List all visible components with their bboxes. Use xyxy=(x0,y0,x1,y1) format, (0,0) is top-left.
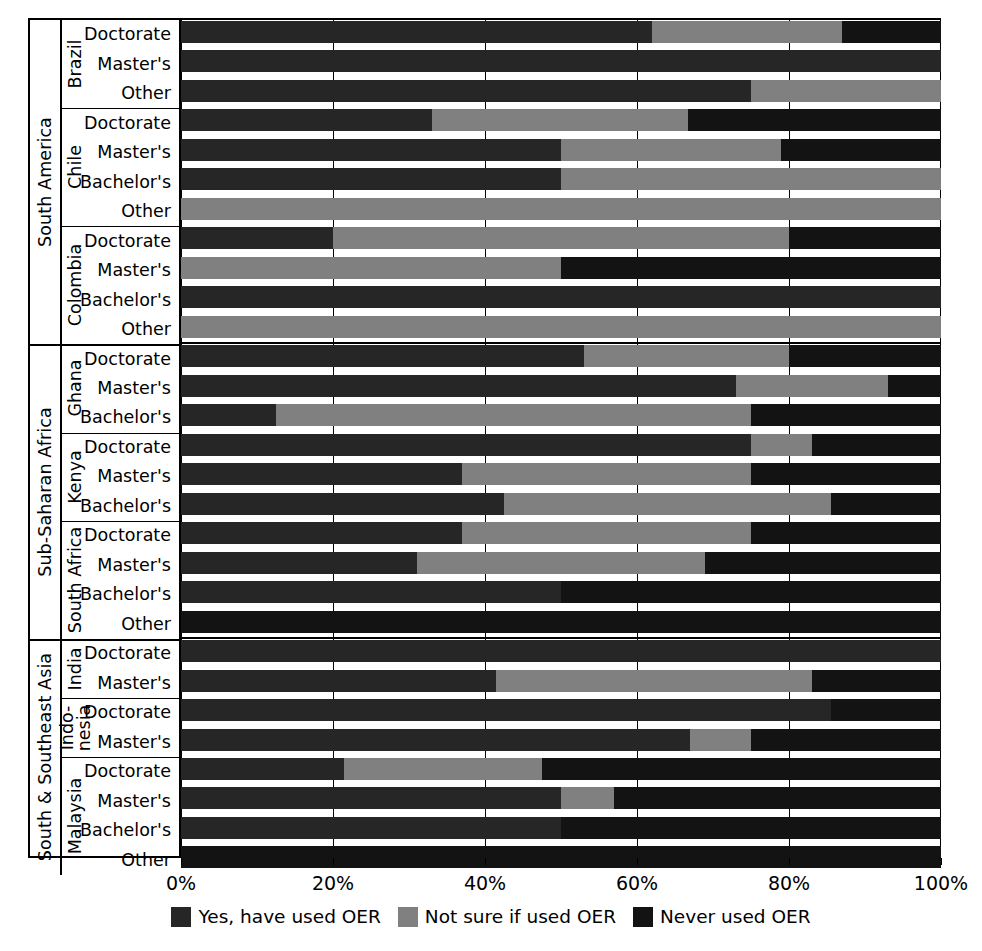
stacked-bar-chart: South AmericaSub-Saharan AfricaSouth & S… xyxy=(0,0,982,951)
bar-row xyxy=(181,581,941,603)
country-separator xyxy=(60,433,179,434)
bar-segment xyxy=(181,817,561,839)
region-separator xyxy=(30,344,179,346)
bar-segment xyxy=(181,787,561,809)
bar-row xyxy=(181,522,941,544)
bar-segment xyxy=(181,257,561,279)
bar-segment xyxy=(751,434,812,456)
legend-label-never: Never used OER xyxy=(660,906,811,927)
x-tick-mark xyxy=(941,858,942,865)
bar-row xyxy=(181,286,941,308)
chart-legend: Yes, have used OER Not sure if used OER … xyxy=(0,906,982,927)
degree-label: Bachelor's xyxy=(80,498,171,516)
degree-label: Doctorate xyxy=(84,115,171,133)
region-label-2: South & Southeast Asia xyxy=(30,639,60,875)
bar-row xyxy=(181,817,941,839)
degree-label: Doctorate xyxy=(84,26,171,44)
x-tick-label: 0% xyxy=(166,872,196,894)
bar-row xyxy=(181,198,941,220)
degree-label: Master's xyxy=(97,56,171,74)
degree-label: Doctorate xyxy=(84,527,171,545)
bar-row xyxy=(181,552,941,574)
bar-segment xyxy=(181,758,344,780)
x-tick-label: 40% xyxy=(464,872,506,894)
bar-segment xyxy=(181,21,652,43)
degree-label: Master's xyxy=(97,380,171,398)
legend-item-notsure: Not sure if used OER xyxy=(398,906,616,927)
bar-segment xyxy=(842,21,941,43)
bar-segment xyxy=(181,316,941,338)
bar-segment xyxy=(181,345,584,367)
degree-label: Master's xyxy=(97,675,171,693)
country-label-text: Brazil xyxy=(67,40,85,89)
bar-row xyxy=(181,80,941,102)
bar-segment xyxy=(751,729,941,751)
bar-segment xyxy=(561,817,941,839)
x-tick-label: 20% xyxy=(312,872,354,894)
x-tick-mark xyxy=(789,858,790,865)
bar-segment xyxy=(181,168,561,190)
bar-segment xyxy=(181,640,941,662)
bar-row xyxy=(181,139,941,161)
bar-segment xyxy=(751,463,941,485)
region-label-text: Sub-Saharan Africa xyxy=(35,407,55,577)
bar-segment xyxy=(561,168,941,190)
category-label-panel: South AmericaSub-Saharan AfricaSouth & S… xyxy=(28,18,181,858)
bar-row xyxy=(181,404,941,426)
region-separator-plot xyxy=(181,342,941,344)
degree-label: Other xyxy=(121,616,171,634)
legend-item-never: Never used OER xyxy=(633,906,811,927)
bar-segment xyxy=(789,345,941,367)
degree-label: Doctorate xyxy=(84,233,171,251)
bar-segment xyxy=(181,80,751,102)
bar-row xyxy=(181,345,941,367)
legend-label-yes: Yes, have used OER xyxy=(198,906,380,927)
legend-label-notsure: Not sure if used OER xyxy=(425,906,616,927)
bar-row xyxy=(181,375,941,397)
bar-segment xyxy=(751,522,941,544)
bar-segment xyxy=(690,729,751,751)
x-tick-mark xyxy=(485,858,486,865)
bar-segment xyxy=(417,552,706,574)
bar-segment xyxy=(181,670,496,692)
bar-segment xyxy=(181,198,941,220)
bar-row xyxy=(181,611,941,633)
bar-segment xyxy=(462,522,751,544)
bar-segment xyxy=(736,375,888,397)
degree-label: Doctorate xyxy=(84,645,171,663)
bar-segment xyxy=(181,434,751,456)
bar-row xyxy=(181,640,941,662)
degree-label: Other xyxy=(121,852,171,870)
country-separator xyxy=(60,226,179,227)
country-label-text: Malaysia xyxy=(67,778,85,854)
x-tick-mark xyxy=(181,858,182,865)
degree-label: Bachelor's xyxy=(80,586,171,604)
region-separator xyxy=(30,639,179,641)
bar-row xyxy=(181,670,941,692)
bar-segment xyxy=(584,345,789,367)
degree-label: Other xyxy=(121,85,171,103)
bar-row xyxy=(181,257,941,279)
bar-segment xyxy=(181,50,941,72)
bar-segment xyxy=(181,286,941,308)
bar-segment xyxy=(751,404,941,426)
bar-segment xyxy=(504,493,831,515)
bar-segment xyxy=(705,552,941,574)
bar-segment xyxy=(181,699,831,721)
bar-segment xyxy=(181,227,333,249)
legend-swatch-never xyxy=(633,907,653,927)
legend-swatch-yes xyxy=(171,907,191,927)
bar-segment xyxy=(344,758,542,780)
degree-label: Bachelor's xyxy=(80,822,171,840)
bar-segment xyxy=(614,787,941,809)
bar-row xyxy=(181,434,941,456)
bar-segment xyxy=(462,463,751,485)
bar-segment xyxy=(789,227,941,249)
bar-row xyxy=(181,227,941,249)
bar-segment xyxy=(181,611,941,633)
degree-label: Bachelor's xyxy=(80,174,171,192)
degree-label: Bachelor's xyxy=(80,409,171,427)
bar-row xyxy=(181,846,941,868)
bar-row xyxy=(181,699,941,721)
degree-label: Doctorate xyxy=(84,704,171,722)
